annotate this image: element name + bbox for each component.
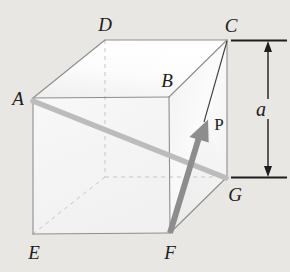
face-front	[33, 97, 170, 234]
vector-label-p: P	[214, 116, 223, 133]
figure-canvas: A B C D E F G P a	[0, 0, 290, 272]
vertex-label-d: D	[98, 15, 112, 34]
vertex-label-g: G	[228, 185, 242, 204]
cube-diagram-svg	[0, 0, 290, 272]
dimension-arrowhead-up	[264, 41, 272, 52]
vertex-label-e: E	[28, 243, 40, 262]
dimension-arrowhead-down	[264, 166, 272, 177]
vertex-label-a: A	[12, 89, 24, 108]
dimension-label-a: a	[256, 99, 266, 119]
vertex-label-b: B	[161, 71, 173, 90]
vertex-label-f: F	[164, 243, 176, 262]
vertex-label-c: C	[225, 16, 238, 35]
